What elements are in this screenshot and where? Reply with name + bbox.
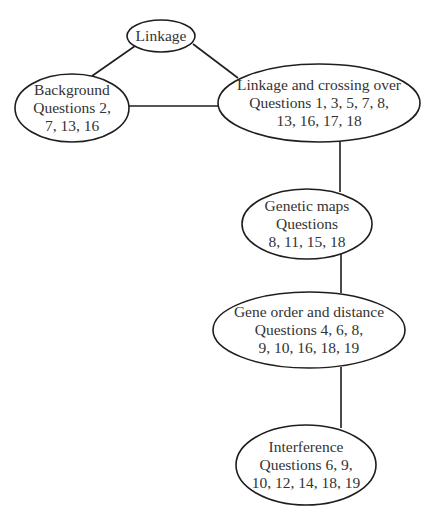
node-label-linkage-crossing-over: Linkage and crossing over Questions 1, 3… — [237, 76, 401, 130]
node-questions-cont: 13, 16, 17, 18 — [237, 112, 401, 130]
node-title: Gene order and distance — [234, 303, 384, 321]
node-questions: Questions 4, 6, 8, — [234, 321, 384, 339]
node-label-gene-order-distance: Gene order and distance Questions 4, 6, … — [234, 303, 384, 357]
node-title: Genetic maps — [265, 197, 350, 215]
node-label-linkage: Linkage — [136, 27, 187, 45]
edge-linkage-to-linkage-crossing-over — [193, 44, 238, 78]
node-title: Linkage and crossing over — [237, 76, 401, 94]
node-questions: Questions 2, — [33, 99, 111, 117]
node-questions-cont: 9, 10, 16, 18, 19 — [234, 339, 384, 357]
node-title: Background — [33, 81, 111, 99]
node-title: Interference — [252, 438, 361, 456]
node-label-background: Background Questions 2, 7, 13, 16 — [33, 81, 111, 135]
node-questions-cont: 10, 12, 14, 18, 19 — [252, 474, 361, 492]
node-questions: Questions 6, 9, — [252, 456, 361, 474]
node-questions: Questions — [265, 215, 350, 233]
node-label-interference: Interference Questions 6, 9, 10, 12, 14,… — [252, 438, 361, 492]
node-questions-cont: 8, 11, 15, 18 — [265, 233, 350, 251]
edge-linkage-to-background — [92, 46, 135, 76]
node-label-genetic-maps: Genetic maps Questions 8, 11, 15, 18 — [265, 197, 350, 251]
node-title: Linkage — [136, 27, 187, 45]
node-questions-cont: 7, 13, 16 — [33, 117, 111, 135]
node-questions: Questions 1, 3, 5, 7, 8, — [237, 94, 401, 112]
